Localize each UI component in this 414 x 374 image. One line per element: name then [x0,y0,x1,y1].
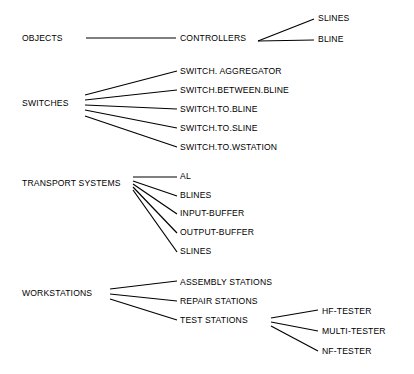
node-objects[interactable]: OBJECTS [22,33,63,43]
connector-line [271,326,318,351]
node-workstations[interactable]: WORKSTATIONS [22,288,92,298]
connector-line [133,190,177,252]
node-input-buffer[interactable]: INPUT-BUFFER [180,208,244,218]
connector-line [85,105,177,109]
node-hf-tester[interactable]: HF-TESTER [322,306,372,316]
connector-line [85,110,177,128]
connector-line [133,181,177,196]
node-switches[interactable]: SWITCHES [22,98,69,108]
node-al[interactable]: AL [180,171,191,181]
edge-group-switches [85,71,177,147]
node-switch-to-sline[interactable]: SWITCH.TO.SLINE [180,123,258,133]
node-repair-stations[interactable]: REPAIR STATIONS [180,296,258,306]
connector-line [133,184,177,214]
node-transport-systems[interactable]: TRANSPORT SYSTEMS [22,178,121,188]
node-controllers[interactable]: CONTROLLERS [180,33,246,43]
node-switch-to-bline[interactable]: SWITCH.TO.BLINE [180,104,258,114]
connector-line [110,281,177,289]
node-multi-tester[interactable]: MULTI-TESTER [322,326,386,336]
connector-line [133,187,177,233]
node-bline[interactable]: BLINE [318,34,344,44]
connector-line [258,19,314,41]
connector-line [85,71,177,95]
edge-group-transport [133,177,177,252]
connector-line [271,322,318,331]
hierarchy-diagram: OBJECTS CONTROLLERS SLINES BLINE SWITCHE… [0,0,414,374]
node-switch-to-wstation[interactable]: SWITCH.TO.WSTATION [180,142,277,152]
connector-line [110,299,177,320]
node-blines[interactable]: BLINES [180,190,211,200]
connector-line [110,294,177,301]
node-nf-tester[interactable]: NF-TESTER [322,346,372,356]
node-switch-aggregator[interactable]: SWITCH. AGGREGATOR [180,66,282,76]
connector-line [85,90,177,100]
connector-line [258,40,314,41]
node-slines-transport[interactable]: SLINES [180,246,211,256]
connector-line [85,116,177,147]
connector-line [271,310,318,318]
node-assembly-stations[interactable]: ASSEMBLY STATIONS [180,277,272,287]
node-slines-controllers[interactable]: SLINES [318,13,349,23]
node-test-stations[interactable]: TEST STATIONS [180,315,248,325]
node-output-buffer[interactable]: OUTPUT-BUFFER [180,227,254,237]
node-switch-between-bline[interactable]: SWITCH.BETWEEN.BLINE [180,85,289,95]
